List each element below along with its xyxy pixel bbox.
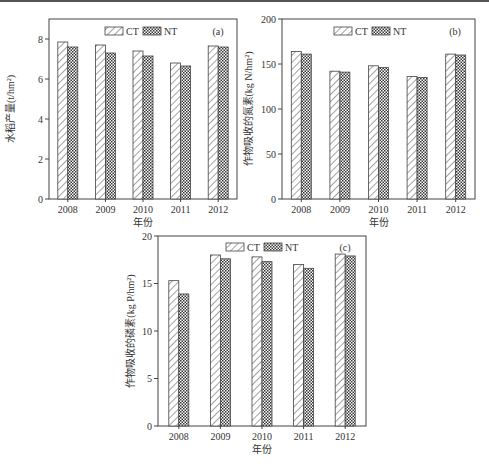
legend-label-ct: CT (247, 242, 260, 253)
bar-nt (220, 259, 230, 426)
y-tick-label: 5 (147, 373, 152, 384)
x-tick-label: 2012 (335, 431, 355, 442)
y-axis-label: 水稻产量(t/hm²) (4, 75, 17, 143)
bar-nt (181, 66, 191, 199)
bar-nt (218, 47, 228, 199)
legend-swatch-nt (264, 243, 282, 251)
y-tick-label: 20 (142, 231, 152, 242)
chart-figure: 0246820082009201020112012年份水稻产量(t/hm²)CT… (0, 0, 489, 469)
x-tick-label: 2009 (330, 204, 350, 215)
y-tick-label: 200 (261, 14, 276, 25)
x-tick-label: 2008 (291, 204, 311, 215)
legend-label-nt: NT (285, 242, 298, 253)
chart-panel-a: 0246820082009201020112012年份水稻产量(t/hm²)CT… (4, 19, 237, 228)
y-tick-label: 0 (147, 421, 152, 432)
x-axis-label: 年份 (369, 216, 389, 228)
chart-panel-c: 0510152020082009201020112012年份作物吸收的磷素(kg… (124, 231, 366, 456)
y-tick-label: 100 (261, 104, 276, 115)
bar-nt (304, 268, 314, 426)
bar-nt (379, 68, 389, 199)
bar-ct (210, 255, 220, 426)
legend-swatch-nt (143, 27, 161, 35)
legend-swatch-ct (334, 27, 352, 35)
bar-ct (171, 63, 181, 199)
bar-nt (143, 56, 153, 199)
bar-nt (340, 72, 350, 199)
x-tick-label: 2010 (133, 204, 153, 215)
x-tick-label: 2011 (407, 204, 427, 215)
y-axis-label: 作物吸收的磷素(kg P/hm²) (124, 274, 137, 387)
x-tick-label: 2011 (171, 204, 191, 215)
bar-ct (208, 46, 218, 199)
bar-ct (446, 54, 456, 199)
y-tick-label: 15 (142, 278, 152, 289)
panel-label: (c) (339, 242, 350, 254)
legend-label-nt: NT (164, 26, 177, 37)
legend-label-ct: CT (355, 26, 368, 37)
panel-label: (b) (449, 26, 461, 38)
y-axis-label: 作物吸收的氮素(kg N/hm²) (242, 52, 255, 167)
x-axis-label: 年份 (252, 443, 272, 455)
bar-nt (345, 256, 355, 426)
bar-nt (68, 47, 78, 199)
x-tick-label: 2008 (58, 204, 78, 215)
bar-ct (291, 51, 301, 199)
y-tick-label: 8 (38, 34, 43, 45)
y-tick-label: 0 (38, 194, 43, 205)
y-tick-label: 150 (261, 59, 276, 70)
bar-nt (262, 262, 272, 426)
legend-swatch-nt (372, 27, 390, 35)
x-tick-label: 2009 (210, 431, 230, 442)
legend-label-ct: CT (126, 26, 139, 37)
x-tick-label: 2010 (369, 204, 389, 215)
y-tick-label: 4 (38, 114, 43, 125)
bar-nt (301, 54, 311, 199)
bar-ct (330, 71, 340, 199)
x-tick-label: 2009 (95, 204, 115, 215)
bar-ct (133, 51, 143, 199)
x-tick-label: 2010 (252, 431, 272, 442)
x-axis-label: 年份 (133, 216, 153, 228)
x-tick-label: 2012 (446, 204, 466, 215)
bar-nt (417, 78, 427, 200)
bar-nt (179, 294, 189, 426)
chart-panel-b: 05010015020020082009201020112012年份作物吸收的氮… (242, 14, 475, 229)
legend-label-nt: NT (393, 26, 406, 37)
bar-nt (456, 55, 466, 199)
bar-ct (407, 77, 417, 199)
y-tick-label: 2 (38, 154, 43, 165)
bar-ct (252, 257, 262, 426)
legend-swatch-ct (105, 27, 123, 35)
bar-ct (58, 42, 68, 199)
bar-ct (95, 45, 105, 199)
bar-ct (169, 281, 179, 426)
bar-ct (369, 66, 379, 199)
legend-swatch-ct (226, 243, 244, 251)
x-tick-label: 2011 (294, 431, 314, 442)
y-tick-label: 6 (38, 74, 43, 85)
bar-nt (105, 53, 115, 199)
x-tick-label: 2008 (169, 431, 189, 442)
panel-label: (a) (212, 26, 223, 38)
y-tick-label: 0 (271, 194, 276, 205)
x-tick-label: 2012 (208, 204, 228, 215)
bar-ct (335, 254, 345, 426)
y-tick-label: 50 (266, 149, 276, 160)
y-tick-label: 10 (142, 326, 152, 337)
bar-ct (294, 265, 304, 427)
